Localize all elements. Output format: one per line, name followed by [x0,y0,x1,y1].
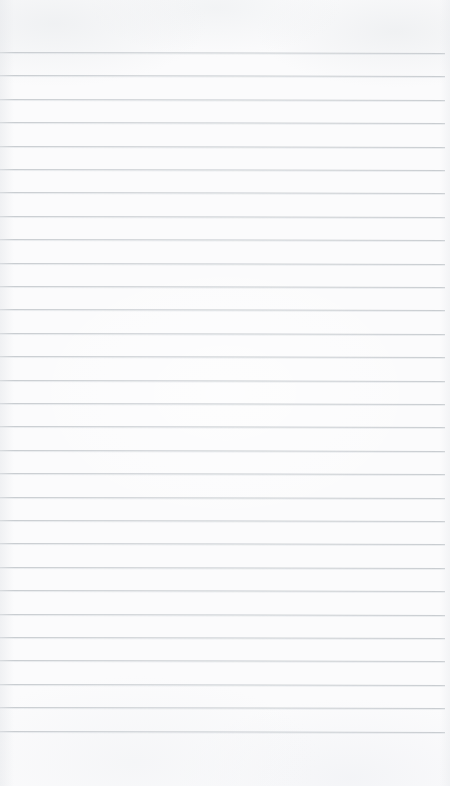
rule-line [0,543,445,545]
rule-line [0,497,445,499]
rule-line [0,356,445,358]
rule-line [0,75,445,77]
rule-line [0,216,445,218]
rule-line [0,614,445,616]
rule-line [0,99,445,101]
rule-line [0,122,445,124]
rule-line [0,520,445,522]
rule-line [0,263,445,265]
rule-line [0,403,445,405]
rule-line [0,380,445,382]
rule-line [0,146,445,148]
rule-line [0,590,445,592]
notebook-page [0,0,450,786]
rule-line [0,637,445,639]
rule-line [0,567,445,569]
rule-line [0,660,445,662]
rule-line [0,473,445,475]
rule-line [0,309,445,311]
rule-line [0,426,445,428]
rule-line [0,731,445,733]
rule-line [0,52,445,54]
rule-line [0,192,445,194]
rule-line [0,333,445,335]
rule-line [0,239,445,241]
ruled-lines-group [0,0,450,786]
rule-line [0,286,445,288]
rule-line [0,450,445,452]
rule-line [0,707,445,709]
rule-line [0,169,445,171]
rule-line [0,684,445,686]
